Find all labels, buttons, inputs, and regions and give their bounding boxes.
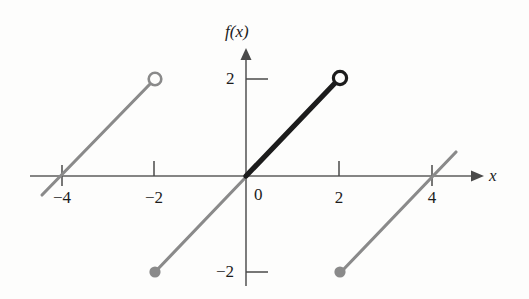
y-axis-title: f(x) [225,23,249,40]
open-point-minus2-2 [149,73,162,86]
x-tick-label-4: 4 [428,189,437,206]
plot-canvas [0,0,529,299]
x-axis-arrowhead [471,171,484,182]
closed-point-minus2-minus2 [149,266,160,277]
branch-left-upper-segment [42,83,151,195]
branch-center-highlighted-segment [246,82,336,176]
x-tick-label-2: 2 [335,189,344,206]
y-tick-label-2: 2 [226,70,235,87]
branch-right-lower-segment [342,152,456,271]
y-tick-label-minus2: −2 [216,263,234,280]
origin-label: 0 [254,186,263,203]
closed-point-2-minus2 [334,266,345,277]
x-tick-label-minus2: −2 [145,189,163,206]
y-axis-arrowhead [241,48,252,60]
open-point-2-2 [333,71,346,84]
branch-left-lower-segment [156,177,246,271]
x-axis-title: x [489,167,497,184]
function-graph-figure: f(x) x −4 −2 2 4 2 −2 0 [0,0,529,299]
x-tick-label-minus4: −4 [53,189,71,206]
